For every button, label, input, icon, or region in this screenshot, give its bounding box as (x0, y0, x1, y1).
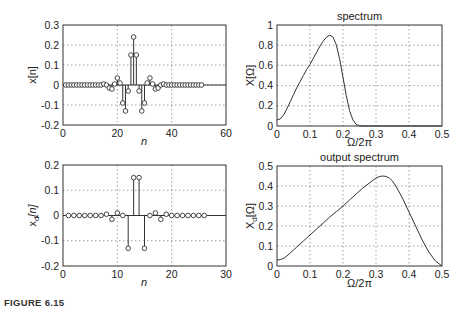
stem-marker (159, 217, 164, 222)
x-tick-label: 0 (274, 268, 280, 280)
y-tick-label: 0 (267, 120, 273, 132)
x-tick-label: 20 (166, 268, 178, 280)
grid-lines (277, 25, 442, 126)
stem-marker (126, 89, 131, 94)
x-tick-label: 60 (220, 127, 232, 139)
y-tick-label: 0.2 (258, 99, 273, 111)
y-tick-label: 0.8 (258, 39, 273, 51)
x-tick-label: 0.1 (303, 268, 318, 280)
stem-marker (139, 109, 144, 114)
stem-marker (137, 175, 142, 180)
y-tick-labels: -0.2-0.100.10.20.3 (41, 19, 59, 131)
stem-marker (120, 213, 125, 218)
stem-marker (199, 83, 204, 88)
x-tick-label: 0.5 (435, 128, 450, 140)
x-tick-label: 10 (111, 268, 123, 280)
stem-plot-xd (63, 175, 226, 250)
panel-x-signal: -0.2-0.100.10.20.3 0204060 n x[n] (26, 19, 232, 148)
stem-marker (186, 213, 191, 218)
y-tick-labels: -0.2-0.100.10.2 (41, 159, 59, 272)
x-axis-label: Ω/2π (347, 277, 372, 289)
y-axis-label: X[Ω] (244, 65, 256, 87)
stem-marker (115, 76, 120, 81)
stem-marker (148, 76, 153, 81)
stem-marker (120, 101, 125, 106)
plot-frame (63, 25, 226, 125)
x-tick-label: 0.4 (402, 268, 417, 280)
y-tick-label: -0.1 (41, 234, 59, 246)
stem-marker (134, 53, 139, 58)
grid-lines (277, 166, 442, 266)
x-axis-label: Ω/2π (347, 136, 372, 148)
line-plot-output-spectrum (277, 176, 442, 266)
figure-caption: FIGURE 6.15 (4, 297, 64, 308)
y-tick-label: 0.4 (258, 180, 273, 192)
stem-marker (88, 213, 93, 218)
panel-output-spectrum: 00.10.20.30.40.5 00.10.20.30.40.5 output… (244, 151, 449, 289)
y-tick-labels: 00.20.40.60.81 (258, 19, 273, 132)
stem-marker (129, 53, 134, 58)
y-label-rest: [n] (26, 203, 38, 217)
y-tick-labels: 00.10.20.30.40.5 (258, 160, 273, 272)
stem-marker (126, 246, 131, 251)
y-tick-label: 0 (267, 260, 273, 272)
y-tick-label: 0.1 (44, 59, 59, 71)
x-tick-label: 0 (60, 268, 66, 280)
x-tick-label: 0.5 (435, 268, 450, 280)
stem-marker (137, 89, 142, 94)
grid-lines (63, 25, 226, 125)
stem-marker (191, 213, 196, 218)
stem-marker (142, 101, 147, 106)
chart-title: spectrum (337, 10, 382, 22)
stem-marker (72, 213, 77, 218)
stem-marker (131, 175, 136, 180)
y-tick-label: 0.5 (258, 160, 273, 172)
stem-marker (104, 212, 109, 217)
stem-marker (123, 109, 128, 114)
y-label-rest: [Ω] (244, 203, 256, 217)
y-axis-label-text: x[n] (26, 66, 38, 84)
stem-marker (115, 211, 120, 216)
stem-marker (164, 212, 169, 217)
y-axis-label: x[n] (26, 66, 38, 84)
x-tick-label: 0 (60, 127, 66, 139)
y-tick-label: -0.2 (41, 260, 59, 272)
y-axis-label: xd[n] (26, 203, 41, 226)
x-tick-label: 40 (166, 127, 178, 139)
y-tick-label: 0.3 (258, 200, 273, 212)
data-line (277, 176, 442, 266)
y-tick-label: 0.2 (44, 159, 59, 171)
x-tick-label: 20 (111, 127, 123, 139)
figure-canvas: -0.2-0.100.10.20.3 0204060 n x[n] 00.20.… (0, 0, 472, 316)
stem-marker (82, 213, 87, 218)
stem-marker (150, 82, 155, 87)
stem-plot-x (63, 35, 226, 114)
y-tick-label: 0.2 (44, 39, 59, 51)
y-tick-label: -0.1 (41, 99, 59, 111)
x-tick-label: 30 (220, 268, 232, 280)
panel-xd-signal: -0.2-0.100.10.2 0102030 n xd[n] (26, 159, 232, 289)
panel-spectrum: 00.20.40.60.81 00.10.20.30.40.5 spectrum… (244, 10, 449, 148)
plot-frame (277, 166, 442, 266)
x-tick-label: 0.1 (303, 128, 318, 140)
stem-marker (77, 213, 82, 218)
y-tick-label: 0.6 (258, 59, 273, 71)
stem-marker (66, 213, 71, 218)
stem-marker (118, 81, 123, 86)
stem-marker (142, 246, 147, 251)
stem-marker (153, 211, 158, 216)
y-tick-label: -0.2 (41, 119, 59, 131)
stem-marker (112, 82, 117, 87)
chart-title: output spectrum (320, 151, 399, 163)
y-tick-label: 0.1 (258, 240, 273, 252)
line-plot-spectrum (277, 35, 442, 126)
y-tick-label: 1 (267, 19, 273, 31)
x-tick-label: 0 (274, 128, 280, 140)
y-axis-label: Xd[Ω] (244, 203, 259, 229)
stem-marker (180, 213, 185, 218)
stem-marker (93, 213, 98, 218)
stem-marker (175, 213, 180, 218)
stem-marker (131, 35, 136, 40)
stem-marker (202, 213, 207, 218)
y-tick-label: 0.2 (258, 220, 273, 232)
